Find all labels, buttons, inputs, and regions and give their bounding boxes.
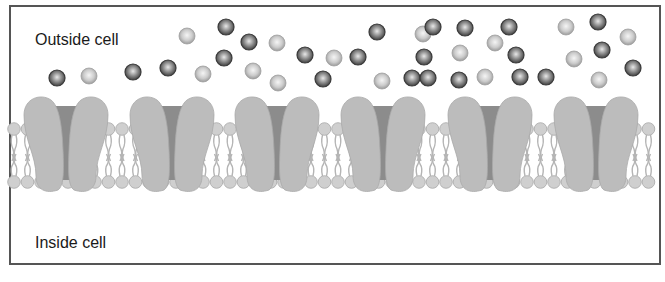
inside-cell-label: Inside cell bbox=[35, 234, 106, 252]
outside-cell-label: Outside cell bbox=[35, 31, 119, 49]
light-particle bbox=[195, 66, 211, 82]
dark-particle bbox=[451, 72, 467, 88]
dark-particle bbox=[538, 69, 554, 85]
dark-particle bbox=[369, 24, 385, 40]
dark-particle bbox=[594, 42, 610, 58]
light-particle bbox=[487, 35, 503, 51]
light-particle bbox=[374, 73, 390, 89]
channel-protein bbox=[235, 97, 319, 192]
channel-protein bbox=[24, 97, 108, 192]
dark-particle bbox=[457, 20, 473, 36]
dark-particle bbox=[501, 19, 517, 35]
solute-particles bbox=[49, 14, 641, 91]
channel-protein bbox=[341, 97, 425, 192]
dark-particle bbox=[297, 47, 313, 63]
dark-particle bbox=[241, 34, 257, 50]
dark-particle bbox=[160, 60, 176, 76]
dark-particle bbox=[590, 14, 606, 30]
dark-particle bbox=[425, 19, 441, 35]
channel-protein bbox=[130, 97, 214, 192]
light-particle bbox=[270, 75, 286, 91]
light-particle bbox=[452, 45, 468, 61]
light-particle bbox=[326, 50, 342, 66]
dark-particle bbox=[49, 70, 65, 86]
channel-protein bbox=[554, 97, 638, 192]
channel-proteins bbox=[24, 97, 638, 192]
light-particle bbox=[620, 29, 636, 45]
light-particle bbox=[477, 69, 493, 85]
dark-particle bbox=[125, 64, 141, 80]
dark-particle bbox=[216, 50, 232, 66]
light-particle bbox=[245, 63, 261, 79]
light-particle bbox=[558, 19, 574, 35]
channel-protein bbox=[448, 97, 532, 192]
light-particle bbox=[81, 68, 97, 84]
dark-particle bbox=[350, 49, 366, 65]
dark-particle bbox=[625, 60, 641, 76]
light-particle bbox=[269, 35, 285, 51]
light-particle bbox=[566, 51, 582, 67]
dark-particle bbox=[404, 70, 420, 86]
dark-particle bbox=[315, 71, 331, 87]
dark-particle bbox=[416, 49, 432, 65]
light-particle bbox=[179, 28, 195, 44]
dark-particle bbox=[508, 47, 524, 63]
dark-particle bbox=[218, 19, 234, 35]
dark-particle bbox=[420, 70, 436, 86]
light-particle bbox=[591, 72, 607, 88]
dark-particle bbox=[512, 69, 528, 85]
